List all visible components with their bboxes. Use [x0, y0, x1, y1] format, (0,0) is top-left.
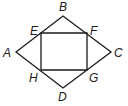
- label-d: D: [58, 90, 67, 104]
- label-e: E: [30, 24, 39, 38]
- rectangle-efgh: [41, 33, 87, 70]
- label-a: A: [2, 46, 11, 60]
- geometry-diagram: A B C D E F G H: [0, 0, 128, 106]
- label-g: G: [89, 71, 98, 85]
- label-c: C: [114, 46, 123, 60]
- label-f: F: [90, 24, 98, 38]
- label-h: H: [29, 71, 38, 85]
- label-b: B: [59, 0, 67, 14]
